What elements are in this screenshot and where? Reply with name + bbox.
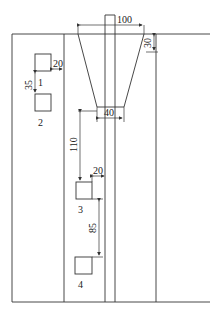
dim-110-label: 110 <box>68 137 79 152</box>
layout-diagram: 100 30 40 1 2 3 4 20 35 110 20 85 <box>0 0 217 311</box>
box-2 <box>35 94 51 111</box>
dim-30-label: 30 <box>142 38 153 48</box>
dim-35-label: 35 <box>23 80 34 90</box>
dim-40-label: 40 <box>104 107 114 118</box>
dim-100-label: 100 <box>117 14 132 25</box>
box-1 <box>35 54 51 71</box>
dim-85-label: 85 <box>87 223 98 233</box>
box-3 <box>76 182 92 199</box>
box-4-label: 4 <box>78 279 83 290</box>
box-1-label: 1 <box>38 77 43 88</box>
dim-box1-gap-label: 20 <box>53 58 63 69</box>
trapezoid-left <box>78 34 97 107</box>
box-2-label: 2 <box>38 117 43 128</box>
dim-box3-gap-label: 20 <box>93 165 103 176</box>
box-3-label: 3 <box>78 204 83 215</box>
box-4 <box>75 257 92 274</box>
trapezoid-right <box>124 34 144 107</box>
